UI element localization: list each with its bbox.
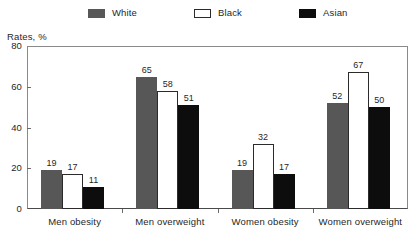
x-axis-tick-mark (313, 209, 314, 213)
bar (253, 144, 274, 209)
y-axis-tick-label: 60 (11, 82, 22, 92)
bar (83, 187, 104, 209)
bar-value-label: 50 (363, 95, 396, 105)
filled-gray-swatch-icon (88, 9, 105, 18)
bar-value-label: 32 (247, 132, 280, 142)
x-axis-group-label: Women obesity (218, 216, 313, 227)
bar-value-label: 65 (130, 65, 163, 75)
legend-label: Black (218, 8, 242, 18)
legend-label: Asian (323, 8, 348, 18)
outlined-white-swatch-icon (194, 9, 211, 18)
x-axis-group-label: Men obesity (27, 216, 122, 227)
x-axis-tick-mark (122, 209, 123, 213)
x-axis-group-label: Men overweight (122, 216, 217, 227)
bar-value-label: 17 (268, 162, 301, 172)
y-axis-tick-mark (27, 168, 31, 169)
bar (232, 170, 253, 209)
y-axis-tick-mark (27, 87, 31, 88)
bar (348, 72, 369, 209)
bar (274, 174, 295, 209)
bar-value-label: 67 (342, 60, 375, 70)
bar (157, 91, 178, 209)
bar-value-label: 11 (77, 175, 110, 185)
bar-chart: WhiteBlackAsian Rates, % 020406080191711… (0, 0, 419, 239)
bar-value-label: 17 (56, 162, 89, 172)
bar (136, 77, 157, 209)
y-axis-tick-label: 0 (17, 204, 22, 214)
bar (327, 103, 348, 209)
x-axis-group-label: Women overweight (313, 216, 408, 227)
x-axis-tick-mark (218, 209, 219, 213)
y-axis-tick-label: 40 (11, 123, 22, 133)
legend-item-asian[interactable]: Asian (299, 6, 348, 20)
bar-value-label: 58 (151, 79, 184, 89)
bar-value-label: 51 (172, 93, 205, 103)
y-axis-tick-mark (27, 128, 31, 129)
y-axis-tick-label: 80 (11, 41, 22, 51)
y-axis-tick-label: 20 (11, 163, 22, 173)
legend-label: White (112, 8, 137, 18)
bar (369, 107, 390, 209)
chart-legend: WhiteBlackAsian (0, 6, 419, 24)
legend-item-black[interactable]: Black (194, 6, 242, 20)
legend-item-white[interactable]: White (88, 6, 137, 20)
bar (41, 170, 62, 209)
filled-black-swatch-icon (299, 9, 316, 18)
bar (178, 105, 199, 209)
